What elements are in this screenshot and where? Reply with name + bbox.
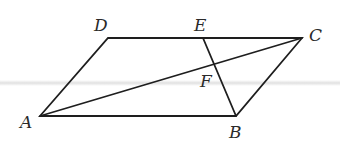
label-a: A (18, 112, 32, 132)
label-f: F (199, 71, 213, 91)
label-e: E (193, 15, 207, 35)
label-b: B (228, 122, 242, 142)
label-d: D (93, 15, 108, 35)
diagonal-ac (40, 38, 302, 116)
parallelogram-diagram: A B C D E F (0, 0, 340, 145)
label-c: C (309, 25, 322, 45)
